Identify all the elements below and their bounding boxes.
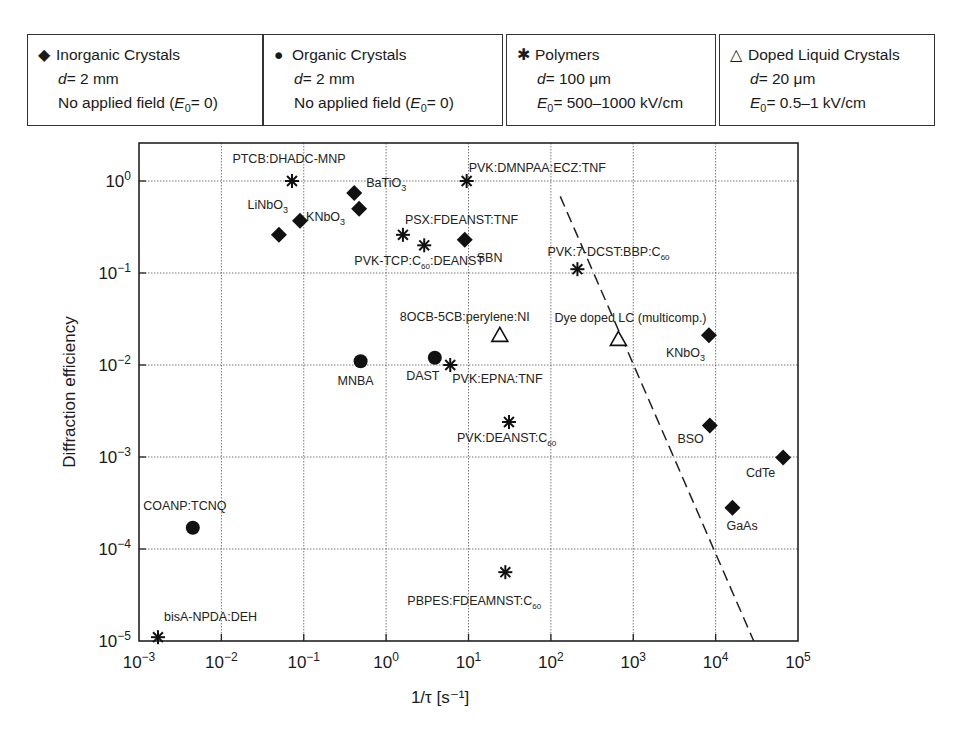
star-marker <box>498 565 512 579</box>
circle-marker <box>428 351 442 365</box>
point-label: Dye doped LC (multicomp.) <box>554 311 706 325</box>
x-tick-label: 10−3 <box>123 650 156 672</box>
point-label: CdTe <box>746 466 775 480</box>
star-marker <box>570 262 584 276</box>
triangle-marker <box>492 327 508 341</box>
scatter-chart: 10−310−210−110010110210310410510−510−410… <box>0 0 960 734</box>
y-tick-label: 10−5 <box>98 629 131 651</box>
star-marker <box>460 174 474 188</box>
point-label: KNbO3 <box>306 210 345 227</box>
dashed-trend-line <box>560 196 753 641</box>
star-marker <box>417 238 431 252</box>
point-label: PVK-TCP:C60:DEANST <box>354 254 484 271</box>
diamond-marker <box>346 185 362 201</box>
y-tick-label: 10−1 <box>98 261 131 283</box>
star-marker <box>285 174 299 188</box>
point-label: GaAs <box>726 519 757 533</box>
circle-marker <box>186 521 200 535</box>
star-marker <box>443 358 457 372</box>
point-label: PVK:DMNPAA:ECZ:TNF <box>469 161 607 175</box>
diamond-marker <box>351 201 367 217</box>
y-axis-label: Diffraction efficiency <box>60 316 79 468</box>
point-label: PSX:FDEANST:TNF <box>405 213 519 227</box>
point-label: PTCB:DHADC-MNP <box>232 152 345 166</box>
point-label: PVK:EPNA:TNF <box>452 372 543 386</box>
diamond-marker <box>271 227 287 243</box>
diamond-marker <box>701 327 717 343</box>
x-tick-label: 100 <box>373 650 399 672</box>
point-label: BaTiO3 <box>366 176 406 193</box>
y-tick-label: 10−3 <box>98 445 131 467</box>
x-tick-label: 10−1 <box>287 650 320 672</box>
x-tick-label: 104 <box>703 650 729 672</box>
star-marker <box>151 630 165 644</box>
x-tick-label: 10−2 <box>205 650 238 672</box>
point-label: PVK:DEANST:C60 <box>457 431 557 448</box>
x-tick-label: 105 <box>785 650 811 672</box>
x-tick-label: 102 <box>538 650 564 672</box>
y-tick-label: 10−2 <box>98 353 131 375</box>
point-label: LiNbO3 <box>248 198 288 215</box>
triangle-marker <box>610 331 626 345</box>
point-label: 8OCB-5CB:perylene:NI <box>400 310 530 324</box>
y-tick-label: 10−4 <box>98 537 131 559</box>
x-tick-label: 101 <box>456 650 482 672</box>
diamond-marker <box>724 500 740 516</box>
diamond-marker <box>457 232 473 248</box>
x-axis-label: 1/τ [s⁻¹] <box>411 688 469 707</box>
point-label: bisA-NPDA:DEH <box>164 610 257 624</box>
point-label: BSO <box>677 432 704 446</box>
y-tick-label: 100 <box>105 169 131 191</box>
point-label: KNbO3 <box>666 346 705 363</box>
star-marker <box>502 415 516 429</box>
point-label: PBPES:FDEAMNST:C60 <box>407 594 541 611</box>
point-label: COANP:TCNQ <box>143 499 227 513</box>
star-marker <box>396 228 410 242</box>
point-label: DAST <box>406 369 440 383</box>
circle-marker <box>354 354 368 368</box>
diamond-marker <box>775 449 791 465</box>
x-tick-label: 103 <box>620 650 646 672</box>
point-label: PVK:7-DCST:BBP:C60 <box>547 245 670 262</box>
point-label: MNBA <box>338 374 375 388</box>
